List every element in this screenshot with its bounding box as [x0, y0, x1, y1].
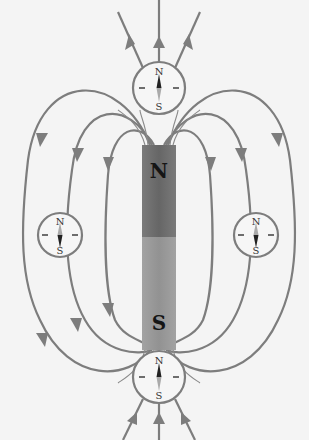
- compass-s-label: S: [253, 245, 260, 256]
- compass-left: N S: [38, 213, 82, 257]
- south-pole-label: S: [152, 311, 166, 335]
- bar-magnet: N S: [142, 145, 176, 350]
- north-pole-label: N: [150, 159, 168, 183]
- compass-n-label: N: [155, 66, 164, 77]
- magnetic-field-diagram: N S N S N S N S N S: [0, 0, 309, 440]
- compass-s-label: S: [57, 245, 64, 256]
- compass-right: N S: [234, 213, 278, 257]
- compass-s-label: S: [156, 390, 163, 401]
- compass-s-label: S: [156, 101, 163, 112]
- compass-n-label: N: [155, 355, 164, 366]
- compass-n-label: N: [56, 216, 65, 227]
- compass-bottom: N S: [133, 351, 185, 403]
- compass-top: N S: [133, 62, 185, 114]
- compass-n-label: N: [252, 216, 261, 227]
